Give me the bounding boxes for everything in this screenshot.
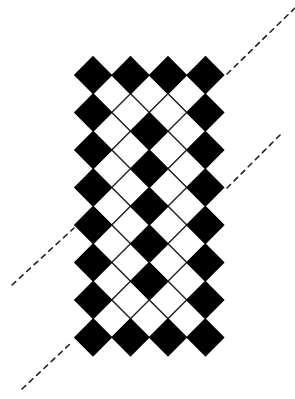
- diamond-grid: [74, 56, 225, 357]
- diamond-checker-diagram: [0, 0, 295, 399]
